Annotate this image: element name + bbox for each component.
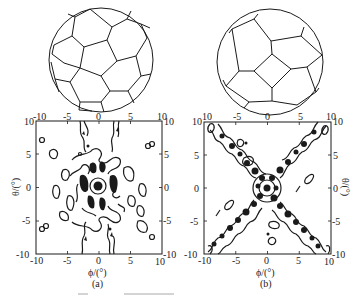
- plot-b-x-axis-label: ϕ/(°): [256, 268, 275, 278]
- plot-b-x-tick: -5: [232, 256, 240, 266]
- plot-a-right-tick: -5: [163, 216, 171, 226]
- plot-a-top-tick: 5: [128, 112, 133, 122]
- plot-b-right-tick: 5: [333, 151, 338, 161]
- plot-a-x-tick: -5: [63, 256, 71, 266]
- plot-b-y-tick: 0: [194, 184, 199, 194]
- sphere-b: [217, 9, 323, 115]
- plot-a-x-axis-label: ϕ/(°): [88, 268, 107, 278]
- cutoff-caption-fragment: [124, 293, 174, 295]
- contour-plot-a: [36, 121, 162, 254]
- plot-b-x-tick: 5: [296, 256, 301, 266]
- plot-b-top-tick: -5: [233, 112, 241, 122]
- plot-a-x-tick: 0: [96, 256, 101, 266]
- contour-plot-b: [204, 122, 331, 254]
- plot-a-x-tick: 5: [128, 256, 133, 266]
- plot-a-x-tick: 10: [155, 257, 165, 267]
- plot-a-right-tick: 10: [164, 117, 174, 127]
- panel-a-caption: (a): [92, 279, 103, 289]
- plot-a-top-tick: -5: [63, 112, 71, 122]
- plot-a-y-tick: -10: [16, 250, 29, 260]
- plot-a-y-tick: 0: [26, 183, 31, 193]
- plot-a-right-tick: 0: [164, 183, 169, 193]
- plot-b-y-tick: 5: [194, 151, 199, 161]
- plot-b-corner-tick-top-left: 10: [192, 117, 202, 127]
- plot-b-x-tick: -10: [198, 256, 211, 266]
- plot-b-corner-tick-bottom-right: -10: [332, 250, 345, 260]
- plot-b-right-tick: 0: [333, 184, 338, 194]
- plot-a-right-tick: 5: [164, 150, 169, 160]
- figure-canvas: [0, 0, 363, 296]
- plot-b-right-tick: 10: [333, 117, 343, 127]
- plot-a-top-tick: 0: [96, 112, 101, 122]
- plot-b-y-axis-label: θ/(°): [340, 178, 350, 196]
- panel-b-caption: (b): [260, 279, 272, 289]
- plot-b-y-tick: -10: [184, 250, 197, 260]
- plot-b-top-tick: 5: [298, 112, 303, 122]
- plot-b-y-tick: -5: [190, 217, 198, 227]
- cutoff-caption-fragment: [78, 293, 88, 295]
- plot-a-x-tick: -10: [30, 256, 43, 266]
- plot-b-x-tick: 10: [324, 257, 334, 267]
- plot-b-top-tick: 10: [202, 112, 212, 122]
- plot-b-right-tick: -5: [332, 217, 340, 227]
- plot-a-corner-tick-bottom-right: -10: [163, 250, 176, 260]
- plot-a-y-axis-label: θ/(°): [11, 178, 21, 196]
- plot-b-x-tick: 0: [264, 256, 269, 266]
- plot-a-y-tick: -5: [22, 216, 30, 226]
- plot-a-top-tick: -10: [33, 112, 46, 122]
- plot-b-top-tick: 0: [265, 112, 270, 122]
- sphere-a: [49, 8, 153, 112]
- plot-a-y-tick: 5: [26, 150, 31, 160]
